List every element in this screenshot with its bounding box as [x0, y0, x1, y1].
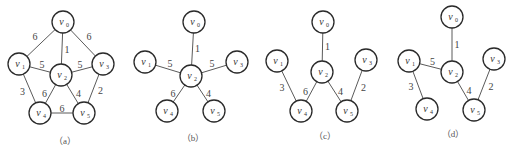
- node-v3: v3: [226, 51, 248, 73]
- edge-weight-label: 5: [40, 59, 45, 70]
- node-v4: v4: [29, 102, 51, 124]
- node-subscript: 3: [369, 60, 372, 66]
- node-label: v: [57, 69, 62, 80]
- node-v5: v5: [73, 102, 95, 124]
- node-label: v: [80, 107, 85, 118]
- edge-weight-label: 1: [325, 41, 330, 52]
- node-label: v: [448, 11, 453, 22]
- node-label: v: [362, 54, 367, 65]
- node-label: v: [318, 66, 323, 77]
- node-label: v: [187, 70, 192, 81]
- edge-weight-label: 2: [361, 82, 366, 93]
- node-v4: v4: [290, 100, 312, 122]
- node-label: v: [297, 105, 302, 116]
- edge-weight-label: 2: [98, 85, 103, 96]
- node-label: v: [319, 16, 324, 27]
- node-subscript: 5: [477, 110, 480, 116]
- edge-weight-label: 5: [168, 58, 173, 69]
- node-label: v: [448, 66, 453, 77]
- edge-weight-label: 6: [60, 103, 65, 114]
- graph-caption: （d）: [442, 129, 465, 139]
- node-label: v: [273, 55, 278, 66]
- node-label: v: [15, 58, 20, 69]
- node-subscript: 2: [325, 72, 328, 78]
- node-v0: v0: [183, 11, 205, 33]
- node-v5: v5: [336, 100, 358, 122]
- node-label: v: [490, 53, 495, 64]
- graph-caption: （a）: [54, 136, 76, 146]
- edge-weight-label: 3: [409, 81, 414, 92]
- node-subscript: 2: [64, 75, 67, 81]
- node-label: v: [210, 105, 215, 116]
- node-subscript: 3: [240, 62, 243, 68]
- graph-figure: 6165536426v0v1v2v3v4v5（a）15564v0v1v2v3v4…: [0, 0, 509, 152]
- edge-weight-label: 6: [42, 88, 47, 99]
- node-subscript: 1: [148, 62, 151, 68]
- node-subscript: 4: [43, 113, 46, 119]
- node-label: v: [36, 107, 41, 118]
- edge-weight-label: 6: [171, 88, 176, 99]
- node-subscript: 3: [497, 59, 500, 65]
- node-label: v: [163, 105, 168, 116]
- node-v0: v0: [312, 11, 334, 33]
- edge-weight-label: 5: [430, 56, 435, 67]
- node-v2: v2: [180, 65, 202, 87]
- node-label: v: [343, 105, 348, 116]
- node-subscript: 1: [280, 61, 283, 67]
- node-label: v: [190, 16, 195, 27]
- node-v2: v2: [50, 64, 72, 86]
- graph-c: 13642v0v1v2v3v4v5（c）: [266, 11, 377, 141]
- edge-weight-label: 5: [210, 58, 215, 69]
- graph-b: 15564v0v1v2v3v4v5（b）: [134, 11, 248, 143]
- node-v5: v5: [203, 100, 225, 122]
- node-subscript: 0: [326, 22, 329, 28]
- node-label: v: [423, 103, 428, 114]
- graph-caption: （b）: [182, 133, 205, 143]
- node-label: v: [141, 56, 146, 67]
- node-subscript: 0: [197, 22, 200, 28]
- node-v3: v3: [355, 49, 377, 71]
- node-v1: v1: [134, 51, 156, 73]
- node-label: v: [99, 58, 104, 69]
- node-subscript: 3: [106, 64, 109, 70]
- edge-weight-label: 4: [467, 85, 472, 96]
- node-subscript: 4: [430, 109, 433, 115]
- edge-weight-label: 1: [195, 43, 200, 54]
- node-v1: v1: [266, 50, 288, 72]
- edge-weight-label: 6: [33, 31, 38, 42]
- node-v0: v0: [52, 11, 74, 33]
- node-subscript: 1: [22, 64, 25, 70]
- node-v5: v5: [463, 99, 485, 121]
- node-label: v: [233, 56, 238, 67]
- edge-weight-label: 6: [87, 31, 92, 42]
- node-subscript: 5: [350, 111, 353, 117]
- node-v3: v3: [483, 48, 505, 70]
- node-label: v: [405, 55, 410, 66]
- node-v4: v4: [416, 98, 438, 120]
- node-v4: v4: [156, 100, 178, 122]
- edge-weight-label: 4: [206, 88, 211, 99]
- node-subscript: 2: [455, 72, 458, 78]
- edge-weight-label: 2: [489, 81, 494, 92]
- node-subscript: 1: [412, 61, 415, 67]
- edge-weight-label: 1: [455, 39, 460, 50]
- node-v0: v0: [441, 6, 463, 28]
- edge-weight-label: 4: [76, 88, 81, 99]
- node-subscript: 5: [217, 111, 220, 117]
- node-v1: v1: [398, 50, 420, 72]
- node-subscript: 0: [66, 22, 69, 28]
- node-v2: v2: [441, 61, 463, 83]
- node-subscript: 4: [304, 111, 307, 117]
- edge-weight-label: 4: [338, 86, 343, 97]
- graph-d: 15342v0v1v2v3v4v5（d）: [398, 6, 505, 139]
- graph-a: 6165536426v0v1v2v3v4v5（a）: [8, 11, 114, 146]
- edge-weight-label: 3: [20, 86, 25, 97]
- node-v1: v1: [8, 53, 30, 75]
- node-label: v: [470, 104, 475, 115]
- graph-caption: （c）: [314, 131, 336, 141]
- edge-weight-label: 5: [78, 59, 83, 70]
- edge-weight-label: 3: [280, 82, 285, 93]
- node-subscript: 5: [87, 113, 90, 119]
- node-subscript: 0: [455, 17, 458, 23]
- node-v2: v2: [311, 61, 333, 83]
